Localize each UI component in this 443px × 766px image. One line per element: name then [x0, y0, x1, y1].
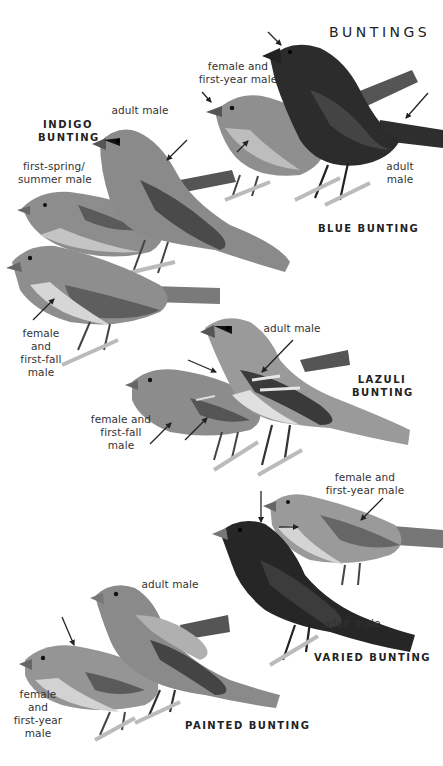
indigo-bunting-female-label: female and first-fall male — [16, 327, 66, 379]
label-line: male — [12, 727, 64, 740]
label-line: adult — [380, 160, 420, 173]
species-name-lazuli-bunting: LAZULI BUNTING — [352, 373, 412, 399]
species-name-painted-bunting: PAINTED BUNTING — [185, 719, 310, 732]
lazuli-bunting-female-label: female and first-fall male — [86, 413, 156, 452]
arrow — [202, 92, 211, 102]
label-line: LAZULI — [352, 373, 412, 386]
label-line: female and — [86, 413, 156, 426]
label-line: male — [86, 439, 156, 452]
label-line: and — [16, 340, 66, 353]
page-title: BUNTINGS — [329, 24, 430, 40]
label-line: first-year — [12, 714, 64, 727]
arrow — [167, 140, 187, 160]
label-line: and — [12, 701, 64, 714]
indigo-bunting-first-spring-label: first-spring/ summer male — [18, 160, 90, 186]
arrow — [268, 32, 281, 45]
species-name-indigo-bunting: INDIGO BUNTING — [38, 118, 98, 144]
page-title-text: BUNTINGS — [329, 24, 430, 40]
label-line: male — [16, 366, 66, 379]
label-line: first-fall — [86, 426, 156, 439]
blue-bunting-adult-male-label: adult male — [380, 160, 420, 186]
label-line: male — [380, 173, 420, 186]
label-line: female — [12, 688, 64, 701]
label-line: first-year male — [315, 484, 415, 497]
label-line: female — [16, 327, 66, 340]
label-line: first-spring/ — [18, 160, 90, 173]
label-line: female and — [315, 471, 415, 484]
arrow — [188, 360, 216, 372]
painted-bunting-female-label: female and first-year male — [12, 688, 64, 740]
arrow — [62, 617, 74, 645]
species-name-blue-bunting: BLUE BUNTING — [318, 222, 419, 235]
label-line: female and — [188, 60, 288, 73]
label-line: INDIGO — [38, 118, 98, 131]
arrow — [406, 93, 428, 118]
label-line: BUNTING — [38, 131, 98, 144]
lazuli-bunting-adult-male-label: adult male — [262, 322, 322, 335]
blue-bunting-female-label: female and first-year male — [188, 60, 288, 86]
varied-bunting-female-label: female and first-year male — [315, 471, 415, 497]
label-line: first-fall — [16, 353, 66, 366]
indigo-bunting-adult-male-label: adult male — [110, 104, 170, 117]
field-guide-plate: BUNTINGS female and first-year male adul… — [0, 0, 443, 766]
painted-bunting-adult-male-label: adult male — [140, 578, 200, 591]
label-line: summer male — [18, 173, 90, 186]
species-name-varied-bunting: VARIED BUNTING — [314, 651, 431, 664]
varied-bunting-adult-male-label: adult male — [322, 617, 382, 630]
label-line: first-year male — [188, 73, 288, 86]
label-line: BUNTING — [352, 386, 412, 399]
